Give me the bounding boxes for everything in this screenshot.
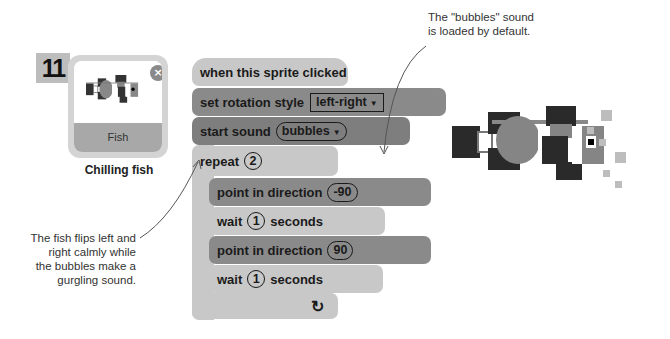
fish-sprite-icon: [448, 100, 608, 180]
bubbles-icon: [585, 105, 635, 195]
